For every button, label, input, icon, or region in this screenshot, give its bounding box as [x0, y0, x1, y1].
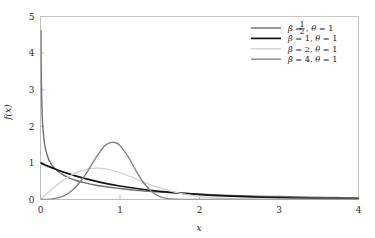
legend: β = 12, θ = 1β = 1, θ = 1β = 2, θ = 1β =…	[251, 19, 337, 64]
y-tick-label: 1	[29, 158, 35, 168]
y-tick-label: 0	[29, 195, 35, 205]
x-axis-label: x	[196, 223, 201, 233]
curve-beta_4	[41, 142, 359, 199]
legend-label-beta_1: β = 1, θ = 1	[287, 33, 337, 43]
y-tick-label: 4	[29, 48, 35, 58]
x-tick-label: 2	[197, 205, 203, 215]
y-tick-label: 5	[29, 12, 35, 22]
chart-figure: 012345 01234 x f(x) β = 12, θ = 1β = 1, …	[0, 0, 375, 238]
x-tick-label: 1	[117, 205, 123, 215]
x-tick-label: 4	[356, 205, 362, 215]
y-tick-label: 2	[29, 122, 35, 132]
x-tick-label: 3	[276, 205, 282, 215]
legend-label-beta_4: β = 4, θ = 1	[287, 54, 337, 64]
legend-label-suffix-beta_half: , θ = 1	[306, 23, 333, 33]
y-tick-label: 3	[29, 85, 35, 95]
weibull-density-plot: 012345 01234 x f(x) β = 12, θ = 1β = 1, …	[0, 0, 375, 238]
legend-label-beta_2: β = 2, θ = 1	[287, 44, 337, 54]
x-tick-label: 0	[38, 205, 44, 215]
y-axis-label: f(x)	[3, 104, 13, 121]
